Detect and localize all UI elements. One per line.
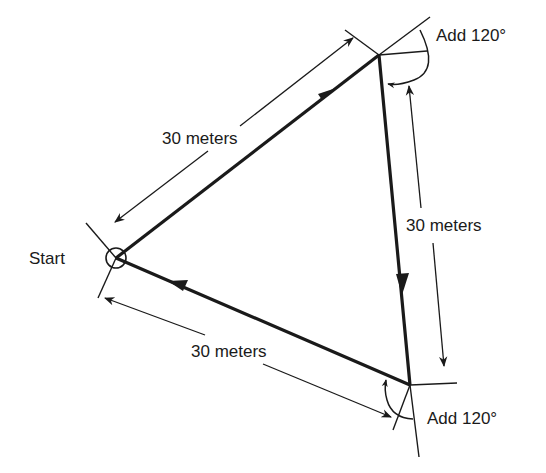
dimension-arrow-3a [105,298,205,335]
side-label-3: 30 meters [191,342,267,361]
turn-label-top: Add 120° [436,26,506,45]
side-label-2: 30 meters [406,216,482,235]
bottom-vertex-extension-2 [410,385,419,457]
dimension-arrow-2a [409,86,421,208]
dimension-arrow-1a [240,38,353,126]
dimension-arrow-1b [115,151,208,222]
triangle-walk-diagram: Start 30 meters 30 meters 30 meters Add … [0,0,546,473]
dimension-arrow-3b [263,364,391,417]
top-vertex-extension [345,30,379,55]
bottom-vertex-extension-3 [393,385,410,430]
path-side-3 [116,258,410,385]
top-vertex-extension-3 [379,51,427,55]
side-label-1: 30 meters [162,129,238,148]
turn-label-bottom: Add 120° [427,409,497,428]
top-turn-arc [388,30,429,85]
direction-arrow-2 [396,273,409,295]
start-tick [86,223,116,258]
path-side-1 [116,55,379,258]
start-label: Start [29,249,65,268]
start-tick-2 [98,258,116,298]
dimension-arrow-2b [433,243,444,366]
bottom-vertex-extension [410,383,457,385]
